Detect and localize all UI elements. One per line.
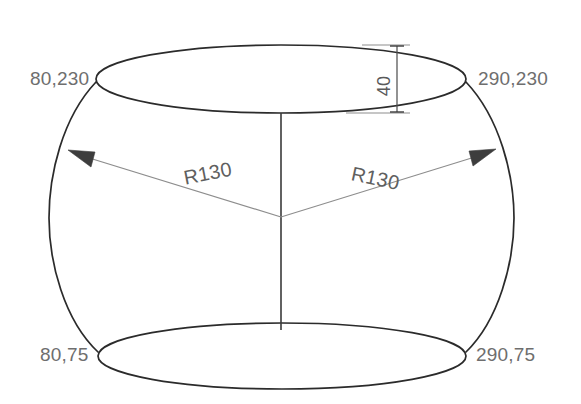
coordinate-label-top-left: 80,230 bbox=[30, 68, 89, 89]
coordinate-label-bottom-left: 80,75 bbox=[40, 344, 89, 365]
coordinate-label-top-right: 290,230 bbox=[478, 68, 548, 89]
dimension-value-40: 40 bbox=[374, 76, 394, 96]
radius-arrowhead-left bbox=[68, 150, 95, 167]
bottom-ellipse bbox=[98, 323, 466, 389]
top-ellipse bbox=[96, 45, 466, 113]
left-barrel-arc bbox=[49, 82, 98, 352]
radius-arrowhead-right bbox=[469, 149, 496, 166]
right-barrel-arc bbox=[466, 82, 514, 352]
drawing-svg: 80,230 290,230 80,75 290,75 R130 R130 40 bbox=[0, 0, 581, 404]
radius-label-right: R130 bbox=[349, 162, 401, 194]
radius-leader-left bbox=[73, 153, 281, 217]
coordinate-label-bottom-right: 290,75 bbox=[476, 344, 535, 365]
engineering-drawing-canvas: 80,230 290,230 80,75 290,75 R130 R130 40 bbox=[0, 0, 581, 404]
radius-label-left: R130 bbox=[182, 158, 234, 189]
